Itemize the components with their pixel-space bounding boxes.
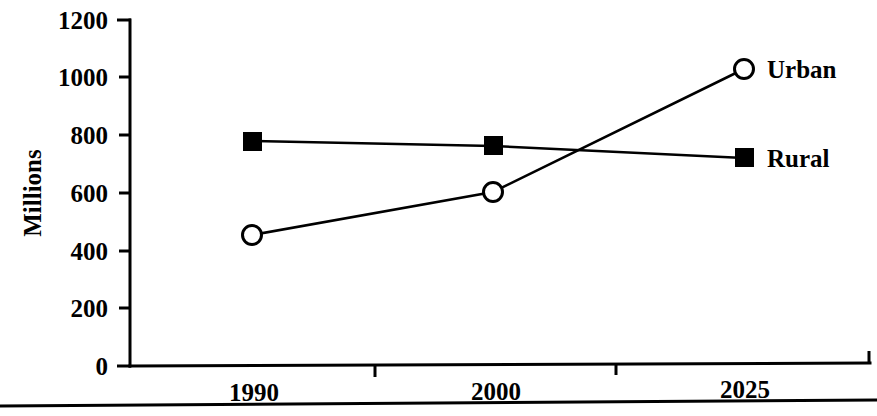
chart-plot-area bbox=[0, 0, 877, 416]
y-tick-label-400: 400 bbox=[0, 239, 108, 264]
y-axis-title: Millions bbox=[20, 149, 45, 237]
series-rural-point-2000 bbox=[484, 136, 503, 155]
chart-figure: 1200 1000 800 600 400 200 0 Millions 199… bbox=[0, 0, 877, 416]
y-tick-label-1200: 1200 bbox=[0, 8, 108, 33]
y-tick-label-1000: 1000 bbox=[0, 65, 108, 90]
y-tick-label-600: 600 bbox=[0, 181, 108, 206]
y-tick-label-800: 800 bbox=[0, 123, 108, 148]
series-label-urban: Urban bbox=[767, 57, 836, 82]
x-tick-label-2025: 2025 bbox=[720, 377, 770, 402]
y-tick-label-0: 0 bbox=[0, 354, 108, 379]
series-rural bbox=[243, 132, 754, 167]
series-urban-point-1990 bbox=[243, 226, 262, 245]
series-urban-point-2000 bbox=[484, 183, 503, 202]
series-urban-point-2025 bbox=[735, 60, 754, 79]
y-tick-label-200: 200 bbox=[0, 296, 108, 321]
x-tick-label-2000: 2000 bbox=[471, 379, 521, 404]
x-tick-label-1990: 1990 bbox=[229, 380, 279, 405]
series-label-rural: Rural bbox=[767, 146, 830, 171]
series-rural-point-2025 bbox=[735, 148, 754, 167]
x-axis-line bbox=[130, 363, 870, 366]
series-rural-point-1990 bbox=[243, 132, 262, 151]
